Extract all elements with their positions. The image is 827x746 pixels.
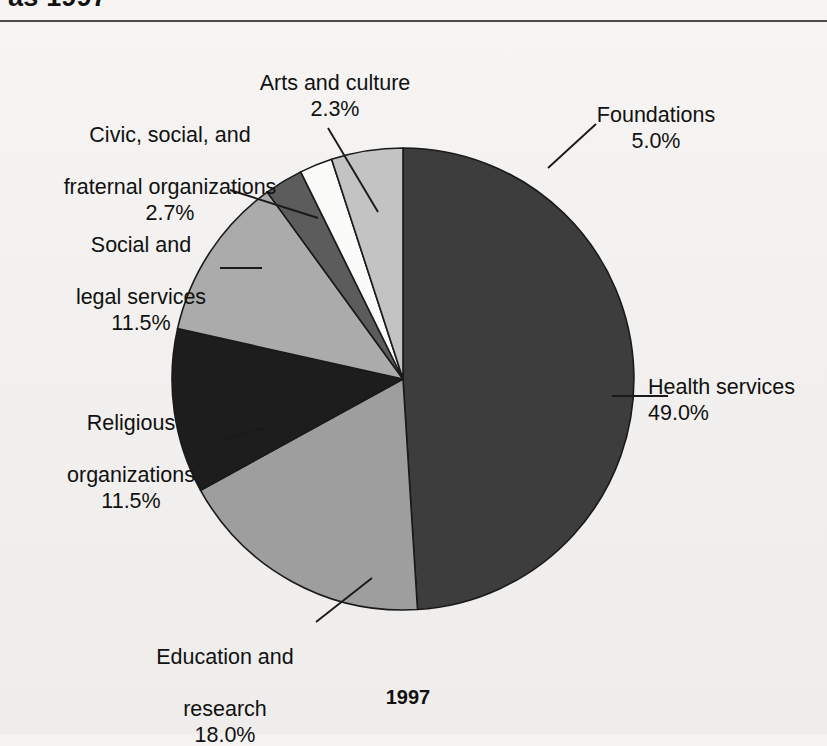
slice-label-education-research-line1: Education and — [156, 645, 293, 669]
slice-label-social-legal: Social and legal services 11.5% — [16, 206, 266, 362]
slice-label-education-research-line2: research — [183, 697, 267, 721]
slice-label-civic-fraternal-line1: Civic, social, and — [89, 123, 250, 147]
slice-label-social-legal-line1: Social and — [91, 233, 191, 257]
slice-label-arts-and-culture-name: Arts and culture — [260, 71, 411, 95]
pie-slice-health-services — [403, 148, 634, 610]
slice-label-religious-line1: Religious — [87, 411, 175, 435]
slice-label-foundations: Foundations 5.0% — [556, 76, 756, 180]
slice-label-education-research: Education and research 18.0% — [100, 618, 350, 746]
slice-label-religious-value: 11.5% — [0, 488, 262, 514]
slice-label-religious: Religious organizations 11.5% — [0, 384, 262, 540]
slice-label-health-services: Health services 49.0% — [648, 348, 827, 452]
slice-label-religious-line2: organizations — [67, 463, 195, 487]
slice-label-social-legal-value: 11.5% — [16, 310, 266, 336]
slice-label-civic-fraternal-line2: fraternal organizations — [64, 175, 277, 199]
slice-label-health-services-name: Health services — [648, 375, 795, 399]
slice-label-foundations-name: Foundations — [597, 103, 715, 127]
slice-label-social-legal-line2: legal services — [76, 285, 206, 309]
slice-label-education-research-value: 18.0% — [100, 722, 350, 746]
slice-label-foundations-value: 5.0% — [556, 128, 756, 154]
chart-caption: 1997 — [358, 686, 458, 709]
slice-label-health-services-value: 49.0% — [648, 400, 827, 426]
